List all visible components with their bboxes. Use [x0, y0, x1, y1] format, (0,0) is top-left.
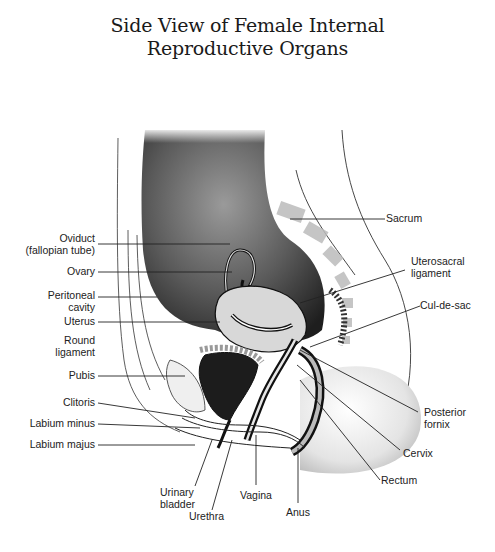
label-peritoneal-cavity: Peritoneal cavity: [48, 290, 95, 313]
label-cul-de-sac-line1: Cul-de-sac: [420, 300, 471, 312]
label-rectum-line1: Rectum: [381, 475, 417, 487]
label-vagina: Vagina: [240, 490, 272, 502]
label-round-ligament: Round ligament: [55, 335, 95, 358]
label-uterus: Uterus: [64, 316, 95, 328]
label-uterosacral-line1: Uterosacral: [411, 256, 465, 268]
label-urethra-line1: Urethra: [189, 511, 224, 523]
label-round-ligament-line1: Round: [55, 335, 95, 347]
label-pubis-line1: Pubis: [69, 370, 95, 382]
label-oviduct-line1: Oviduct: [26, 233, 95, 245]
label-cul-de-sac: Cul-de-sac: [420, 300, 471, 312]
label-cervix: Cervix: [403, 448, 433, 460]
label-anus: Anus: [286, 507, 310, 519]
label-posterior-fornix-line2: fornix: [424, 419, 466, 431]
label-sacrum: Sacrum: [386, 213, 422, 225]
label-labium-majus-line1: Labium majus: [30, 439, 95, 451]
label-rectum: Rectum: [381, 475, 417, 487]
label-oviduct: Oviduct (fallopian tube): [26, 233, 95, 256]
label-urinary-bladder-line2: bladder: [160, 499, 195, 511]
label-labium-minus-line1: Labium minus: [30, 418, 95, 430]
label-cervix-line1: Cervix: [403, 448, 433, 460]
label-anus-line1: Anus: [286, 507, 310, 519]
label-peritoneal-line2: cavity: [48, 302, 95, 314]
label-sacrum-line1: Sacrum: [386, 213, 422, 225]
label-uterosacral-ligament: Uterosacral ligament: [411, 256, 465, 279]
bladder-shape: [199, 352, 258, 420]
label-clitoris: Clitoris: [63, 397, 95, 409]
label-urinary-bladder-line1: Urinary: [160, 487, 195, 499]
label-vagina-line1: Vagina: [240, 490, 272, 502]
label-posterior-fornix: Posterior fornix: [424, 407, 466, 430]
label-posterior-fornix-line1: Posterior: [424, 407, 466, 419]
label-uterus-line1: Uterus: [64, 316, 95, 328]
label-labium-minus: Labium minus: [30, 418, 95, 430]
label-labium-majus: Labium majus: [30, 439, 95, 451]
label-pubis: Pubis: [69, 370, 95, 382]
label-round-ligament-line2: ligament: [55, 347, 95, 359]
label-uterosacral-line2: ligament: [411, 268, 465, 280]
label-urinary-bladder: Urinary bladder: [160, 487, 195, 510]
label-clitoris-line1: Clitoris: [63, 397, 95, 409]
label-ovary: Ovary: [67, 266, 95, 278]
external-genitalia-shape: [175, 410, 305, 448]
label-oviduct-line2: (fallopian tube): [26, 245, 95, 257]
label-ovary-line1: Ovary: [67, 266, 95, 278]
label-peritoneal-line1: Peritoneal: [48, 290, 95, 302]
label-urethra: Urethra: [189, 511, 224, 523]
